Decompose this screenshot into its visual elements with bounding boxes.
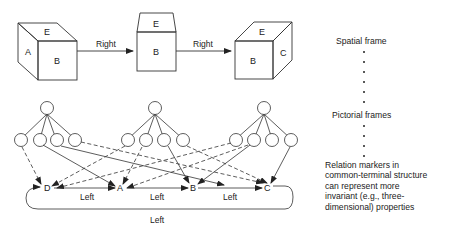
terminal-node-d: D xyxy=(44,183,51,193)
face-label: E xyxy=(259,27,265,37)
ellipsis-dot xyxy=(363,135,365,137)
solid-edges xyxy=(43,145,290,186)
face-label: E xyxy=(44,27,50,37)
loop-label: Left xyxy=(150,215,165,225)
frame-network xyxy=(15,102,298,147)
relation-label: Left xyxy=(150,192,165,202)
face-label: B xyxy=(250,56,256,66)
face-label: B xyxy=(54,56,60,66)
note-line: can represent more xyxy=(325,181,449,191)
note-line: Relation markers in xyxy=(325,160,449,170)
ellipsis-dot xyxy=(363,51,365,53)
relation-label: Left xyxy=(223,192,238,202)
ellipsis-dot xyxy=(363,91,365,93)
dashed-edges xyxy=(22,142,267,188)
face-label: C xyxy=(280,48,287,58)
ellipsis-dot xyxy=(363,125,365,127)
ellipsis-dot xyxy=(363,61,365,63)
spatial-frame-label: Spatial frame xyxy=(336,36,387,46)
transition-label: Right xyxy=(96,39,116,49)
ellipsis-dot xyxy=(363,71,365,73)
terminal-node-a: A xyxy=(117,183,123,193)
note-line: common-terminal structure xyxy=(325,170,449,180)
face-label: E xyxy=(153,19,159,29)
note-line: invariant (e.g., three- xyxy=(325,191,449,201)
transition-label: Right xyxy=(193,39,213,49)
ellipsis-dot xyxy=(363,145,365,147)
terminal-node-c: C xyxy=(264,183,271,193)
ellipsis-dot xyxy=(363,155,365,157)
terminal-node-b: B xyxy=(190,183,196,193)
ellipsis-dot xyxy=(363,101,365,103)
pictorial-frames-label: Pictorial frames xyxy=(332,110,391,120)
face-label: B xyxy=(153,47,159,57)
note-line: dimensional) properties xyxy=(325,202,449,212)
relation-label: Left xyxy=(80,192,95,202)
ellipsis-dot xyxy=(363,81,365,83)
face-label: A xyxy=(25,47,31,57)
relation-markers-note: Relation markers in common-terminal stru… xyxy=(325,160,449,212)
